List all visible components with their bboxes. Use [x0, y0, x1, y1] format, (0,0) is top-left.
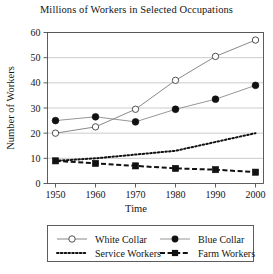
y-axis-title: Number of Workers — [5, 66, 16, 150]
data-point — [132, 118, 139, 125]
y-tick-label: 40 — [31, 77, 41, 88]
data-point — [92, 160, 98, 166]
x-tick-label: 1960 — [86, 189, 106, 200]
data-point — [172, 165, 178, 171]
x-axis-title: Time — [125, 203, 147, 214]
data-point — [252, 82, 259, 89]
x-tick-label: 2000 — [246, 189, 266, 200]
chart-plot: 0102030405060 195019601970198019902000 T… — [0, 0, 273, 274]
data-point — [92, 124, 98, 130]
y-tick-label: 50 — [31, 52, 41, 63]
data-point — [52, 130, 58, 136]
data-point — [252, 37, 258, 43]
data-point — [172, 77, 178, 83]
data-point — [52, 158, 58, 164]
data-point — [172, 106, 179, 113]
chart-legend: White CollarBlue CollarService WorkersFa… — [48, 226, 256, 262]
legend-label: Blue Collar — [198, 234, 245, 245]
series-blue-collar — [52, 82, 259, 125]
x-axis-ticks: 195019601970198019902000 — [46, 184, 266, 200]
y-tick-label: 30 — [31, 103, 41, 114]
series-farm-workers — [52, 158, 258, 176]
legend-marker — [172, 250, 178, 256]
series-white-collar — [52, 37, 258, 137]
series-line — [56, 85, 256, 121]
series-service-workers — [56, 133, 256, 161]
series-line — [56, 133, 256, 161]
y-tick-label: 20 — [31, 128, 41, 139]
series-line — [56, 161, 256, 172]
data-point — [212, 167, 218, 173]
x-tick-label: 1950 — [46, 189, 66, 200]
x-tick-label: 1980 — [166, 189, 186, 200]
y-tick-label: 60 — [31, 27, 41, 38]
y-tick-label: 0 — [36, 178, 41, 189]
data-point — [92, 113, 99, 120]
data-point — [132, 106, 138, 112]
data-point — [252, 169, 258, 175]
y-tick-label: 10 — [31, 153, 41, 164]
legend-marker — [172, 236, 179, 243]
chart-container: Millions of Workers in Selected Occupati… — [0, 0, 273, 274]
data-point — [212, 53, 218, 59]
y-axis-ticks: 0102030405060 — [31, 27, 48, 189]
legend-label: Farm Workers — [198, 248, 255, 259]
legend-label: Service Workers — [95, 248, 161, 259]
data-point — [212, 96, 219, 103]
gridlines — [48, 33, 264, 159]
x-tick-label: 1990 — [206, 189, 226, 200]
series-line — [56, 40, 256, 133]
legend-label: White Collar — [95, 234, 148, 245]
data-point — [132, 163, 138, 169]
legend-marker — [69, 236, 75, 242]
data-point — [52, 117, 59, 124]
x-tick-label: 1970 — [126, 189, 146, 200]
